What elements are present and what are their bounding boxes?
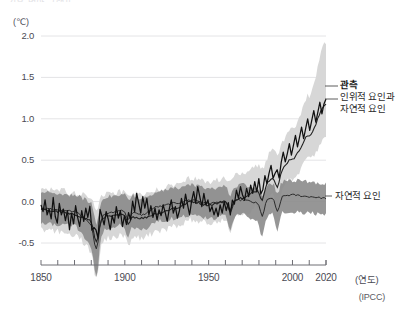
- series-label-observed: 관측: [340, 79, 357, 91]
- callout-leader-lines: [325, 86, 338, 196]
- y-tick-label: 0.5: [8, 154, 34, 165]
- x-tick-label: 2020: [306, 272, 346, 283]
- x-tick-label: 1950: [189, 272, 229, 283]
- y-tick-label: 2.0: [8, 30, 34, 41]
- cropped-header-text: 기후 변화 그래프: [8, 0, 73, 2]
- y-tick-label: -0.5: [8, 237, 34, 248]
- x-tick-label: 1850: [21, 272, 61, 283]
- y-tick-label: 1.5: [8, 71, 34, 82]
- x-axis-name-label: (연도): [355, 272, 379, 286]
- series-label-natural: 자연적 요인: [335, 190, 381, 202]
- source-attribution-label: (IPCC): [359, 292, 385, 302]
- y-tick-label: 0.0: [8, 196, 34, 207]
- x-tick-label: 1900: [105, 272, 145, 283]
- x-axis-group: [41, 260, 326, 265]
- series-label-human-natural-line2: 자연적 요인: [340, 103, 386, 115]
- y-axis-unit-label: (℃): [13, 17, 29, 27]
- series-label-human-natural-line1: 인위적 요인과: [340, 91, 395, 103]
- y-tick-label: 1.0: [8, 113, 34, 124]
